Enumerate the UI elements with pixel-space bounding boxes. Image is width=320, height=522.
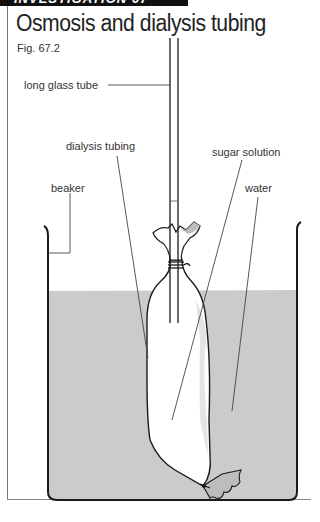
label-dialysis-tubing: dialysis tubing <box>66 140 135 152</box>
label-long-glass-tube: long glass tube <box>24 79 98 91</box>
label-sugar-solution: sugar solution <box>212 146 281 158</box>
label-water: water <box>245 182 272 194</box>
label-beaker: beaker <box>51 182 85 194</box>
